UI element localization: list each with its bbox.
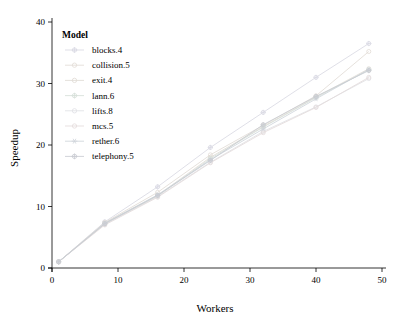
x-axis: 01020304050: [48, 268, 387, 285]
speedup-scaling-chart: 010203040 01020304050 Modelblocks.4colli…: [0, 0, 395, 322]
legend-item-mcs.5[interactable]: mcs.5: [65, 121, 114, 131]
x-tick-label: 10: [114, 275, 124, 285]
legend-item-label: telephony.5: [92, 151, 134, 161]
y-axis-title: Speedup: [8, 129, 20, 167]
y-tick-label: 20: [36, 140, 46, 150]
data-point: [313, 75, 318, 80]
legend-item-telephony.5[interactable]: telephony.5: [65, 151, 134, 161]
x-tick-label: 30: [246, 275, 256, 285]
y-tick-label: 30: [36, 79, 46, 89]
data-point: [261, 110, 266, 115]
data-point: [72, 139, 78, 144]
chart-legend: Modelblocks.4collision.5exit.4lann.6lift…: [62, 30, 134, 161]
x-tick-label: 20: [180, 275, 190, 285]
series-mcs.5: [57, 75, 371, 264]
legend-item-blocks.4[interactable]: blocks.4: [65, 45, 123, 55]
data-point: [72, 47, 78, 53]
x-tick-label: 50: [378, 275, 388, 285]
legend-item-label: rether.6: [92, 136, 120, 146]
y-tick-label: 10: [36, 202, 46, 212]
legend-title: Model: [62, 30, 88, 40]
x-axis-title: Workers: [197, 302, 234, 314]
legend-item-exit.4[interactable]: exit.4: [65, 75, 113, 85]
legend-item-rether.6[interactable]: rether.6: [65, 136, 120, 146]
y-axis: 010203040: [36, 17, 52, 273]
data-point: [72, 93, 78, 99]
data-point: [366, 41, 371, 46]
x-tick-label: 40: [312, 275, 322, 285]
y-tick-label: 40: [36, 17, 46, 27]
legend-item-label: lifts.8: [92, 106, 113, 116]
data-point: [72, 154, 78, 160]
legend-item-label: collision.5: [92, 60, 130, 70]
legend-item-label: exit.4: [92, 75, 113, 85]
y-tick-label: 0: [41, 263, 46, 273]
legend-item-collision.5[interactable]: collision.5: [65, 60, 130, 70]
x-tick-label: 0: [50, 275, 55, 285]
legend-item-label: mcs.5: [92, 121, 114, 131]
legend-item-lifts.8[interactable]: lifts.8: [65, 106, 113, 116]
chart-canvas: 010203040 01020304050 Modelblocks.4colli…: [0, 0, 395, 322]
legend-item-label: lann.6: [92, 91, 115, 101]
legend-item-lann.6[interactable]: lann.6: [65, 91, 115, 101]
series-lifts.8: [57, 77, 371, 264]
legend-item-label: blocks.4: [92, 45, 123, 55]
